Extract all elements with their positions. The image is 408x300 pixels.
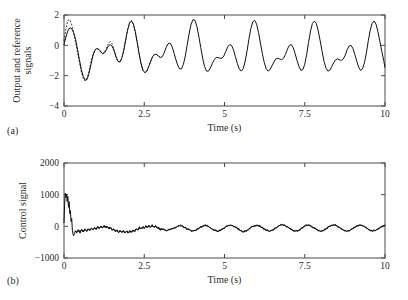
y-axis-title: signals <box>22 47 33 75</box>
series-path-0 <box>64 20 385 81</box>
x-tick-label: 5 <box>222 109 227 119</box>
y-tick-label: 1000 <box>40 190 59 200</box>
chart-a-svg: 02.557.51020−2−4Time (s)Output and refer… <box>0 0 408 150</box>
chart-b-svg: 02.557.510200010000−1000Time (s)Control … <box>0 150 408 300</box>
x-tick-label: 0 <box>62 109 67 119</box>
y-tick-label: −4 <box>49 101 59 111</box>
y-tick-label: 0 <box>54 41 59 51</box>
x-tick-label: 5 <box>222 261 227 271</box>
series-noise-overlay <box>75 224 384 233</box>
plot-frame <box>64 15 385 106</box>
y-tick-label: 0 <box>54 222 59 232</box>
y-axis-title: Output and reference <box>11 18 22 103</box>
x-tick-label: 2.5 <box>138 109 150 119</box>
y-tick-label: −2 <box>49 71 59 81</box>
figure-container: 02.557.51020−2−4Time (s)Output and refer… <box>0 0 408 300</box>
y-tick-label: 2 <box>54 10 59 20</box>
x-axis-title: Time (s) <box>208 274 242 286</box>
chart-panel-a: 02.557.51020−2−4Time (s)Output and refer… <box>0 0 408 150</box>
x-tick-label: 10 <box>380 261 390 271</box>
x-tick-label: 7.5 <box>299 261 311 271</box>
x-tick-label: 0 <box>62 261 67 271</box>
x-tick-label: 2.5 <box>138 261 150 271</box>
x-tick-label: 10 <box>380 109 390 119</box>
plot-frame <box>64 163 385 258</box>
x-tick-label: 7.5 <box>299 109 311 119</box>
chart-panel-b: 02.557.510200010000−1000Time (s)Control … <box>0 150 408 300</box>
y-tick-label: 2000 <box>40 158 59 168</box>
y-tick-label: −1000 <box>35 253 60 263</box>
x-axis-title: Time (s) <box>208 122 242 134</box>
subfigure-label-b: (b) <box>7 275 19 286</box>
subfigure-label-a: (a) <box>7 125 18 136</box>
y-axis-title: Control signal <box>17 182 28 239</box>
